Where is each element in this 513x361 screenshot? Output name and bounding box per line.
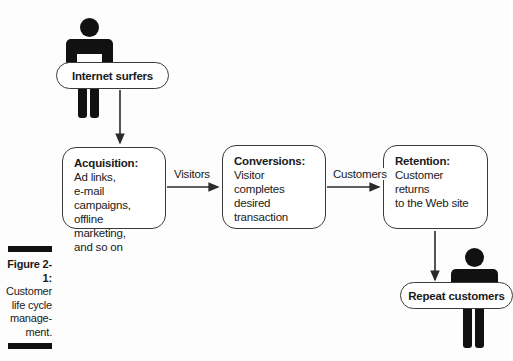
node-acquisition-title: Acquisition: [74,156,156,170]
node-internet-surfers-label: Internet surfers [72,70,153,82]
node-acquisition-line-3: offline marketing, [74,212,156,240]
caption-line-3: manage- [0,312,52,326]
node-conversions-line-1: Visitor completes [234,168,316,196]
node-retention[interactable]: Retention: Customer returns to the Web s… [383,145,488,229]
edge-label-visitors: Visitors [172,168,212,180]
node-acquisition-line-1: Ad links, [74,170,156,184]
caption-text: Figure 2-1: Customer life cycle manage- … [0,252,56,339]
caption-figure-number: Figure 2-1: [0,258,52,285]
caption-line-1: Customer [0,285,52,299]
node-repeat-customers[interactable]: Repeat customers [400,282,513,309]
node-repeat-customers-label: Repeat customers [408,290,505,302]
node-retention-line-2: to the Web site [395,196,478,210]
node-retention-line-1: Customer returns [395,168,478,196]
node-conversions[interactable]: Conversions: Visitor completes desired t… [222,145,326,229]
node-acquisition-line-2: e-mail campaigns, [74,184,156,212]
node-acquisition[interactable]: Acquisition: Ad links, e-mail campaigns,… [62,147,166,229]
node-acquisition-line-4: and so on [74,240,156,254]
node-conversions-line-2: desired transaction [234,196,316,224]
caption-rule-bottom [8,343,52,349]
node-internet-surfers[interactable]: Internet surfers [56,62,169,89]
figure-caption: Figure 2-1: Customer life cycle manage- … [0,246,56,349]
person-head [465,248,484,267]
node-conversions-title: Conversions: [234,154,316,168]
caption-line-4: ment. [0,326,52,340]
person-head [80,18,99,37]
edge-label-customers: Customers [331,168,389,180]
node-retention-title: Retention: [395,154,478,168]
caption-line-2: life cycle [0,299,52,313]
